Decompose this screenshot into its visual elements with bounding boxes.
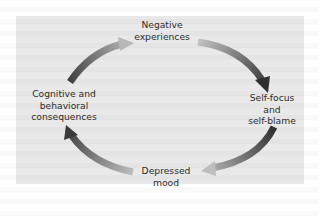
node-depressed-mood: Depressed mood — [142, 165, 191, 188]
node-label-line: self-blame — [248, 115, 296, 127]
node-label-line: and — [248, 104, 296, 116]
node-label-line: experiences — [134, 31, 190, 43]
arrow-depressed-to-cognitive — [64, 125, 133, 172]
node-label-line: Self-focus — [248, 92, 296, 104]
node-negative-experiences: Negative experiences — [134, 19, 190, 42]
node-label-line: Negative — [134, 19, 190, 31]
node-label-line: Depressed — [142, 165, 191, 177]
node-self-focus: Self-focus and self-blame — [248, 92, 296, 127]
node-label-line: behavioral — [31, 100, 97, 112]
node-label-line: Cognitive and — [31, 88, 97, 100]
node-label-line: consequences — [31, 111, 97, 123]
arrow-cognitive-to-negative — [70, 37, 134, 82]
node-cognitive-consequences: Cognitive and behavioral consequences — [31, 88, 97, 123]
arrow-negative-to-selffocus — [198, 42, 270, 93]
node-label-line: mood — [142, 177, 191, 189]
arrow-selffocus-to-depressed — [201, 127, 274, 176]
